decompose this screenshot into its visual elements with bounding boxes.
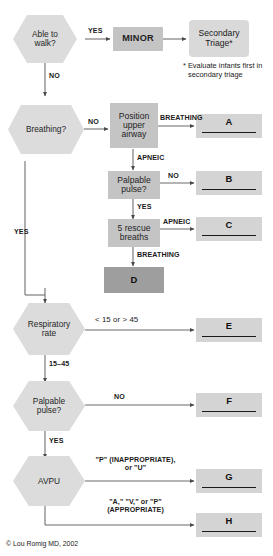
outcome-f-letter: F [226,396,232,406]
outcome-b-letter: B [226,174,233,184]
outcome-g-letter: G [225,472,232,482]
process-rescue-breaths-line2: breaths [118,233,151,242]
decision-palpable-pulse-2-line2: pulse? [33,406,65,415]
outcome-box-e[interactable]: E [196,318,262,342]
copyright-credit: © Lou Romig MD, 2002 [6,540,78,547]
outcome-h-rule [202,531,256,532]
outcome-box-g[interactable]: G [196,469,262,493]
edge-label-airway-breathing: BREATHING [160,114,203,122]
edge-label-walk-yes: YES [88,27,103,35]
edge-label-avpu-pu-line2: or "U" [83,464,188,472]
edge-label-breaths-breathing: BREATHING [137,251,180,259]
outcome-box-a[interactable]: A [196,114,262,138]
edge-label-avpu-avp: "A," "V," or "P" (APPROPRIATE) [83,498,188,514]
outcome-e-letter: E [226,321,232,331]
outcome-g-rule [202,487,256,488]
process-five-rescue-breaths[interactable]: 5 rescue breaths [108,219,160,247]
process-secondary-triage-line2: Triage* [198,39,239,48]
decision-able-to-walk-line2: walk? [32,39,58,48]
edge-label-avpu-pu-line1: "P" (INAPPROPRIATE), [83,456,188,464]
edge-label-avpu-avp-line1: "A," "V," or "P" [83,498,188,506]
edge-label-breaths-apneic: APNEIC [163,218,190,226]
edge-label-pulse1-no: NO [168,172,179,180]
process-airway-line3: airway [119,130,150,139]
process-palpable-pulse-1[interactable]: Palpable pulse? [108,171,160,199]
process-secondary-triage[interactable]: Secondary Triage* [189,20,249,57]
outcome-b-rule [202,189,256,190]
edge-label-walk-no: NO [49,72,60,80]
outcome-box-h[interactable]: H [196,513,262,537]
secondary-triage-footnote: * Evaluate infants first in secondary tr… [183,62,262,80]
edge-label-breathing-yes: YES [14,228,29,236]
footnote-line2: secondary triage [183,71,262,80]
edge-label-pulse2-no: NO [114,393,125,401]
decision-avpu-label: AVPU [38,477,60,486]
decision-breathing-label: Breathing? [26,125,66,134]
outcome-box-b[interactable]: B [196,171,262,195]
process-palpable-pulse-1-line2: pulse? [117,185,150,194]
edge-label-resp-in-range: 15–45 [49,360,69,368]
outcome-box-c[interactable]: C [196,217,262,241]
decision-breathing[interactable]: Breathing? [8,105,84,154]
edge-label-avpu-pu: "P" (INAPPROPRIATE), or "U" [83,456,188,472]
outcome-a-rule [202,132,256,133]
outcome-h-letter: H [226,516,233,526]
outcome-c-letter: C [226,220,233,230]
edge-label-pulse1-yes: YES [137,203,152,211]
outcome-a-letter: A [226,117,233,127]
process-minor[interactable]: MINOR [113,27,163,51]
decision-respiratory-rate-line2: rate [28,329,70,338]
jumpstart-triage-flowchart: Able to walk? MINOR Secondary Triage* * … [0,0,273,556]
edge-label-avpu-avp-line2: (APPROPRIATE) [83,506,188,514]
outcome-box-d[interactable]: D [104,267,164,293]
outcome-c-rule [202,235,256,236]
edge-label-breathing-no: NO [88,118,99,126]
outcome-f-rule [202,411,256,412]
edge-label-resp-out-of-range: < 15 or > 45 [95,316,138,325]
outcome-d-letter: D [131,275,138,285]
process-position-upper-airway[interactable]: Position upper airway [110,103,158,148]
outcome-e-rule [202,336,256,337]
process-minor-label: MINOR [122,34,154,44]
edge-label-pulse2-yes: YES [49,437,64,445]
outcome-box-f[interactable]: F [196,393,262,417]
edge-label-airway-apneic: APNEIC [137,154,164,162]
